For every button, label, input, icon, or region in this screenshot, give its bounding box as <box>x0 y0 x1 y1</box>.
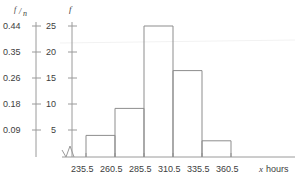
relative-frequency-axis-title-slash: / <box>18 7 22 16</box>
relative-frequency-tick-label-1: 0.35 <box>3 47 21 57</box>
frequency-tick-label-4: 5 <box>51 125 56 135</box>
x-tick-label-0: 235.5 <box>71 164 94 174</box>
histogram-bar-310.5-335.5 <box>173 71 202 157</box>
relative-frequency-tick-label-0: 0.44 <box>3 21 21 31</box>
frequency-tick-label-0: 25 <box>46 21 56 31</box>
x-tick-label-2: 285.5 <box>129 164 152 174</box>
background-artifact-line <box>60 40 295 43</box>
x-axis-unit-label: hours <box>266 164 289 174</box>
histogram-chart: f / n 0.44 0.35 0.26 0.18 0.09 f 25 20 1… <box>0 0 295 179</box>
x-tick-label-1: 260.5 <box>100 164 123 174</box>
x-tick-label-4: 335.5 <box>187 164 210 174</box>
relative-frequency-tick-label-2: 0.26 <box>3 73 21 83</box>
relative-frequency-tick-label-3: 0.18 <box>3 99 21 109</box>
frequency-tick-label-2: 15 <box>46 73 56 83</box>
x-axis-variable-label: x <box>258 164 263 174</box>
x-tick-label-3: 310.5 <box>158 164 181 174</box>
relative-frequency-tick-label-4: 0.09 <box>3 125 21 135</box>
histogram-bar-260.5-285.5 <box>115 108 144 157</box>
histogram-bar-335.5-360.5 <box>202 141 231 157</box>
relative-frequency-axis-title-numerator: f <box>14 5 18 14</box>
histogram-bar-285.5-310.5 <box>144 26 173 157</box>
frequency-tick-label-3: 10 <box>46 99 56 109</box>
histogram-bar-235.5-260.5 <box>86 135 115 157</box>
x-tick-label-5: 360.5 <box>216 164 239 174</box>
frequency-axis-title: f <box>69 4 73 14</box>
frequency-tick-label-1: 20 <box>46 47 56 57</box>
relative-frequency-axis-title-denominator: n <box>23 9 27 18</box>
